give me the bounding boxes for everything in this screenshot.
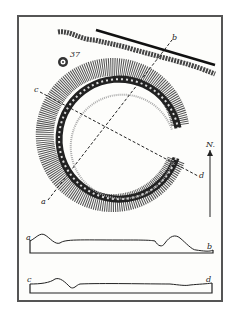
ring-enclosure bbox=[45, 67, 180, 203]
section-profile-a-b bbox=[30, 234, 213, 253]
profile-label-a: a bbox=[26, 233, 31, 242]
mound-number-label: 37 bbox=[70, 50, 81, 59]
label-c: c bbox=[34, 85, 39, 94]
label-d: d bbox=[199, 171, 204, 180]
section-profile-c-d bbox=[30, 279, 212, 293]
label-a: a bbox=[41, 197, 46, 206]
profile-label-d: d bbox=[206, 275, 211, 284]
north-label: N. bbox=[205, 140, 215, 149]
north-arrow-icon bbox=[207, 150, 213, 217]
profile-label-c: c bbox=[27, 275, 32, 284]
earthwork-plan: 37 a b c d N. a b c d bbox=[0, 0, 237, 320]
label-b: b bbox=[172, 33, 177, 42]
road-line bbox=[58, 30, 215, 74]
profile-label-b: b bbox=[207, 242, 212, 251]
small-mound-icon bbox=[58, 57, 68, 67]
